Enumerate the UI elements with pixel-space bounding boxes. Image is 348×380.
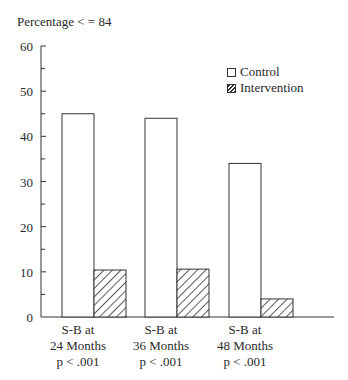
x-category-label-48: S-B at 48 Months p < .001 <box>205 322 285 370</box>
bars-group <box>62 114 293 317</box>
bar-intervention-2 <box>177 269 209 317</box>
legend-label-control: Control <box>240 64 280 80</box>
category-line: S-B at <box>121 322 201 338</box>
category-line: p < .001 <box>38 354 118 370</box>
category-line: 36 Months <box>121 338 201 354</box>
y-tick-label: 60 <box>20 39 33 54</box>
category-line: p < .001 <box>205 354 285 370</box>
category-line: p < .001 <box>121 354 201 370</box>
y-tick-label: 0 <box>27 310 34 325</box>
control-swatch-icon <box>227 68 236 77</box>
y-axis-ticks <box>41 46 46 294</box>
bar-intervention-3 <box>261 299 293 317</box>
bar-control-1 <box>62 114 94 317</box>
y-tick-label: 10 <box>20 265 33 280</box>
legend-label-intervention: Intervention <box>240 80 304 96</box>
category-line: 24 Months <box>38 338 118 354</box>
x-category-label-36: S-B at 36 Months p < .001 <box>121 322 201 370</box>
x-category-label-24: S-B at 24 Months p < .001 <box>38 322 118 370</box>
category-line: 48 Months <box>205 338 285 354</box>
bar-intervention-1 <box>94 270 126 317</box>
y-axis-tick-labels: 0102030405060 <box>20 39 33 325</box>
intervention-swatch-icon <box>227 84 236 93</box>
y-tick-label: 30 <box>20 175 33 190</box>
bar-control-3 <box>229 163 261 317</box>
y-tick-label: 40 <box>20 129 33 144</box>
category-line: S-B at <box>38 322 118 338</box>
y-tick-label: 20 <box>20 220 33 235</box>
legend-item-intervention: Intervention <box>227 80 304 96</box>
bar-control-2 <box>145 118 177 317</box>
legend-item-control: Control <box>227 64 304 80</box>
legend: Control Intervention <box>227 64 304 96</box>
y-tick-label: 50 <box>20 84 33 99</box>
category-line: S-B at <box>205 322 285 338</box>
